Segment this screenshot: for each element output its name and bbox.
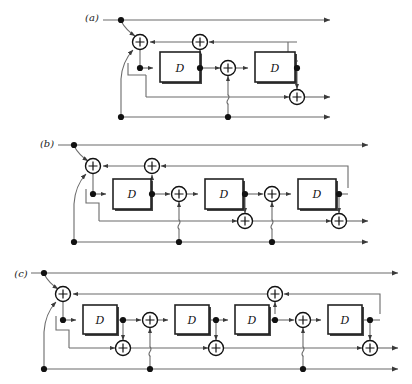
delay-c-2: D <box>175 305 211 336</box>
panel-b-label: (b) <box>40 138 54 149</box>
adder-c-2 <box>268 287 283 302</box>
adder-c-1 <box>56 287 71 302</box>
delay-c-4-label: D <box>340 314 350 327</box>
node-b-tap-4 <box>336 191 342 197</box>
adder-c-7 <box>363 341 378 356</box>
node-b-tap-1 <box>90 191 96 197</box>
delay-c-1-label: D <box>95 314 105 327</box>
panel-c-left-vert-to-adder1 <box>44 302 56 332</box>
panel-b-left-vert-to-adder1 <box>74 174 86 204</box>
node-c-input-bottom <box>41 366 47 372</box>
adder-b-6 <box>332 214 347 229</box>
node-c-input-top <box>41 270 47 276</box>
node-a-tap-1 <box>137 65 143 71</box>
adder-a-1 <box>133 35 148 50</box>
adder-a-3 <box>221 61 236 76</box>
delay-b-1: D <box>113 179 153 211</box>
adder-a-4 <box>290 90 305 105</box>
adder-b-4 <box>265 187 280 202</box>
adder-c-3 <box>143 313 158 328</box>
delay-b-2: D <box>205 179 245 211</box>
node-a-bottom-tap <box>225 114 231 120</box>
node-b-input-top <box>71 142 77 148</box>
panel-b-input-branch <box>74 146 88 161</box>
panel-c-input-branch <box>44 274 58 289</box>
node-b-tap-3 <box>242 191 248 197</box>
adder-c-5 <box>116 341 131 356</box>
node-c-tap-5 <box>367 317 373 323</box>
node-b-bottom-tap-1 <box>176 239 182 245</box>
node-a-input-top <box>118 17 124 23</box>
delay-c-3-label: D <box>247 314 257 327</box>
adder-a-2 <box>193 35 208 50</box>
adder-c-4 <box>296 313 311 328</box>
node-c-tap-2 <box>120 317 126 323</box>
delay-b-3-label: D <box>312 188 322 201</box>
figure-root: (a) <box>0 0 412 384</box>
delay-b-2-label: D <box>219 188 229 201</box>
adder-c-6 <box>209 341 224 356</box>
adder-b-5 <box>238 214 253 229</box>
node-b-input-bottom <box>71 239 77 245</box>
panel-a-wire-hop-1 <box>227 95 229 104</box>
panel-b: (b) <box>40 138 368 246</box>
node-a-tap-3 <box>294 65 300 71</box>
panel-c-feedback-right-drop <box>375 294 380 314</box>
panel-a-label: (a) <box>85 12 99 23</box>
delay-c-4: D <box>328 305 364 336</box>
circuit-diagram-svg: (a) <box>0 0 412 384</box>
node-b-bottom-tap-2 <box>269 239 275 245</box>
node-c-tap-3 <box>213 317 219 323</box>
adder-b-3 <box>172 187 187 202</box>
panel-a: (a) <box>85 12 330 121</box>
node-b-tap-2 <box>149 191 155 197</box>
node-c-bottom-tap-1 <box>147 366 153 372</box>
delay-a-1: D <box>160 52 202 84</box>
delay-a-1-label: D <box>175 62 185 75</box>
delay-c-3: D <box>235 305 271 336</box>
delay-a-2: D <box>255 52 297 84</box>
delay-b-1-label: D <box>127 188 137 201</box>
delay-b-3: D <box>298 179 338 211</box>
panel-b-feedback-right-drop <box>343 166 348 188</box>
delay-c-1: D <box>83 305 119 336</box>
panel-a-lower-left-corner <box>128 63 146 75</box>
delay-c-2-label: D <box>187 314 197 327</box>
delay-a-2-label: D <box>270 62 280 75</box>
panel-c: (c) <box>14 268 398 373</box>
node-c-tap-1 <box>60 317 66 323</box>
panel-a-input-branch <box>121 21 135 36</box>
adder-b-1 <box>86 159 101 174</box>
panel-c-label: (c) <box>14 268 28 279</box>
node-c-bottom-tap-2 <box>300 366 306 372</box>
node-c-tap-4 <box>272 317 278 323</box>
node-a-input-bottom <box>118 114 124 120</box>
node-a-tap-2 <box>197 65 203 71</box>
adder-b-2 <box>145 159 160 174</box>
